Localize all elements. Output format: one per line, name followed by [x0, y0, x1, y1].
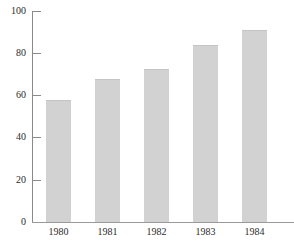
bar-chart: 100 80 60 40 20 0 1980 1981 1982 1983 19…: [0, 0, 294, 242]
y-axis-label-20: 20: [0, 175, 26, 185]
x-axis-label-1984: 1984: [234, 226, 275, 238]
y-axis-tick-100: [33, 11, 41, 12]
x-axis-label-1982: 1982: [136, 226, 177, 238]
plot-area: 100 80 60 40 20 0 1980 1981 1982 1983 19…: [0, 0, 294, 242]
y-axis-label-60: 60: [0, 90, 26, 100]
y-axis-label-100: 100: [0, 6, 26, 16]
y-axis-label-0: 0: [0, 217, 26, 227]
y-axis-label-40: 40: [0, 132, 26, 142]
bar-1982[interactable]: [144, 69, 169, 222]
y-axis-line: [32, 11, 33, 223]
bar-1981[interactable]: [95, 79, 120, 222]
x-axis-line: [32, 222, 294, 223]
y-axis-tick-80: [33, 53, 41, 54]
y-axis-tick-20: [33, 180, 41, 181]
x-axis-label-1981: 1981: [87, 226, 128, 238]
x-axis-label-1980: 1980: [38, 226, 79, 238]
y-axis-label-80: 80: [0, 48, 26, 58]
bar-1983[interactable]: [193, 45, 218, 222]
bar-1984[interactable]: [242, 30, 267, 222]
x-axis-label-1983: 1983: [185, 226, 226, 238]
y-axis-tick-40: [33, 137, 41, 138]
bar-1980[interactable]: [46, 100, 71, 222]
y-axis-tick-60: [33, 95, 41, 96]
